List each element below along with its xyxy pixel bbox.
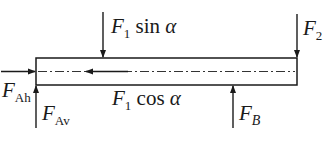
label-fav: FAv (42, 103, 70, 127)
symbol: F (239, 101, 252, 125)
label-fah: FAh (2, 80, 31, 104)
symbol: F (42, 101, 55, 125)
label-fb: FB (239, 103, 260, 128)
label-f1-sin-alpha: F1 sin α (111, 16, 176, 40)
subscript: Av (55, 113, 70, 128)
greek-symbol: α (170, 86, 181, 110)
function-name: sin (130, 14, 165, 38)
symbol: F (111, 14, 124, 38)
symbol: F (303, 16, 316, 40)
function-name: cos (131, 86, 170, 110)
symbol: F (112, 86, 125, 110)
subscript: 2 (316, 28, 323, 43)
subscript: B (252, 113, 261, 128)
symbol: F (2, 78, 15, 102)
subscript: Ah (15, 90, 31, 105)
greek-symbol: α (165, 14, 176, 38)
label-f1-cos-alpha: F1 cos α (112, 88, 181, 112)
label-f2: F2 (303, 18, 322, 42)
